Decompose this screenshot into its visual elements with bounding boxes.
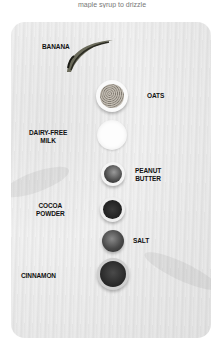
cocoa-bowl-icon xyxy=(100,197,125,222)
banana-icon xyxy=(57,34,115,74)
ingredients-photo: BANANA OATS DAIRY-FREE MILK PEANUT BUTTE… xyxy=(11,22,211,338)
salt-bowl-icon xyxy=(102,230,124,252)
label-cocoa-powder: COCOA POWDER xyxy=(36,202,65,217)
label-salt: SALT xyxy=(133,237,149,245)
cinnamon-bowl-icon xyxy=(97,258,129,290)
oats-fill xyxy=(100,84,124,108)
label-dairy-free-milk: DAIRY-FREE MILK xyxy=(29,129,67,144)
label-peanut-butter: PEANUT BUTTER xyxy=(135,167,161,182)
label-oats: OATS xyxy=(147,92,164,100)
label-banana: BANANA xyxy=(42,43,70,51)
peanut-butter-bowl-icon xyxy=(101,162,125,186)
marble-vein xyxy=(11,161,72,204)
caption: maple syrup to drizzle xyxy=(0,0,224,8)
label-cinnamon: CINNAMON xyxy=(21,272,56,280)
marble-vein xyxy=(141,246,211,296)
milk-bowl-icon xyxy=(97,120,127,150)
oats-bowl-icon xyxy=(96,80,128,112)
